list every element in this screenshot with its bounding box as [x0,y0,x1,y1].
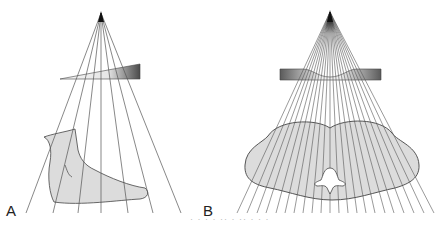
wedge-filter [60,64,140,79]
panel-b [237,10,434,213]
panel-a [26,11,181,213]
bow-tie-filter [280,69,381,80]
figure-caption: · · · · ·· · ·· · · · [190,214,269,224]
source-a-icon [98,11,104,22]
x-ray-filter-diagram [0,0,443,225]
panel-label-a: A [6,202,16,219]
foot-shape [44,129,148,203]
